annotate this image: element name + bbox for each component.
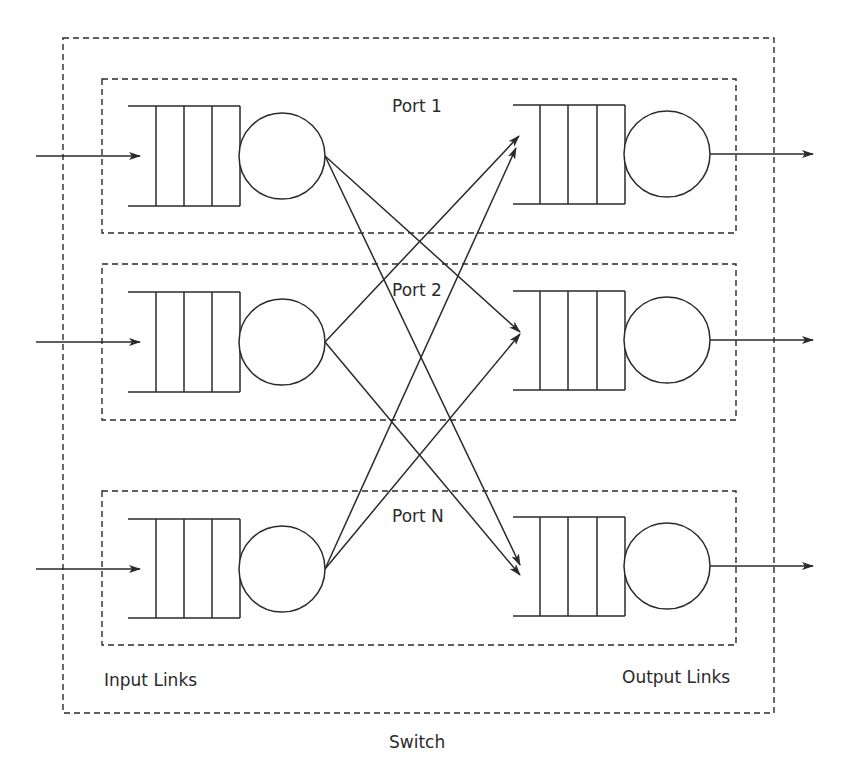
port-n: Port N bbox=[36, 491, 813, 645]
port-n-output-server-icon bbox=[624, 523, 710, 609]
port-2: Port 2 bbox=[36, 264, 813, 420]
port-1-label: Port 1 bbox=[392, 96, 442, 116]
port-2-input-queue bbox=[128, 292, 240, 392]
port-n-output-queue bbox=[513, 517, 625, 616]
switch-label: Switch bbox=[389, 732, 445, 752]
port-n-label: Port N bbox=[392, 506, 444, 526]
port-1: Port 1 bbox=[36, 79, 813, 233]
port-1-output-server-icon bbox=[624, 111, 710, 197]
port-2-output-queue bbox=[513, 291, 625, 390]
port-n-input-queue bbox=[128, 519, 240, 618]
port-2-input-server-icon bbox=[239, 299, 325, 385]
connection-port2-to-portn bbox=[325, 342, 520, 575]
port-1-input-server-icon bbox=[239, 113, 325, 199]
port-1-output-queue bbox=[513, 105, 625, 204]
port-1-input-queue bbox=[128, 106, 240, 206]
output-links-label: Output Links bbox=[622, 667, 730, 687]
connection-portn-to-port2 bbox=[325, 334, 520, 569]
port-2-output-server-icon bbox=[624, 297, 710, 383]
input-links-label: Input Links bbox=[104, 670, 197, 690]
switch-diagram: Port 1 Port 2 bbox=[0, 0, 849, 761]
connection-port1-to-port2 bbox=[325, 156, 520, 332]
port-2-label: Port 2 bbox=[392, 280, 442, 300]
port-n-input-server-icon bbox=[239, 526, 325, 612]
connection-port2-to-port1 bbox=[325, 136, 519, 342]
